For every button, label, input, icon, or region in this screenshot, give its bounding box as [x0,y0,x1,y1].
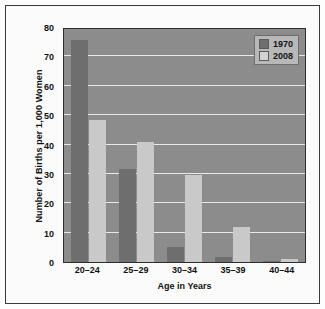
bar-2008-25-29 [137,142,154,262]
bar-2008-20-24 [89,120,106,262]
y-tick-label: 80 [44,23,54,33]
bar-1970-30-34 [167,247,184,262]
bar-1970-40-44 [263,261,280,262]
bar-2008-40-44 [281,259,298,262]
y-tick-label: 0 [49,258,54,268]
bar-chart-figure: Number of Births per 1,000 Women 8070605… [6,6,321,305]
y-tick-label: 70 [44,52,54,62]
bar-group [211,29,254,262]
legend: 19702008 [254,35,299,65]
y-tick-label: 30 [44,170,54,180]
legend-entry: 1970 [259,39,293,49]
y-tick-label: 60 [44,82,54,92]
bar-group [66,29,109,262]
bar-group [163,29,206,262]
x-tick-label: 35–39 [211,265,255,279]
x-axis-title: Age in Years [63,281,306,291]
x-tick-label: 20–24 [65,265,109,279]
x-tick-label: 30–34 [163,265,207,279]
legend-swatch-icon [259,51,269,61]
y-tick-label: 50 [44,111,54,121]
y-axis-tick-labels: 80706050403020100 [28,28,58,263]
bar-1970-35-39 [215,257,232,262]
figure-frame: Number of Births per 1,000 Women 8070605… [5,5,320,304]
legend-label: 1970 [273,40,293,49]
y-tick-label: 20 [44,199,54,209]
bar-group [115,29,158,262]
bar-1970-20-24 [71,40,88,262]
y-tick-label: 40 [44,141,54,151]
legend-swatch-icon [259,39,269,49]
x-tick-label: 25–29 [114,265,158,279]
y-tick-label: 10 [44,229,54,239]
x-tick-label: 40–44 [260,265,304,279]
plot-area: 19702008 [63,28,306,263]
legend-label: 2008 [273,52,293,61]
chart-page: Number of Births per 1,000 Women 8070605… [0,0,325,309]
bar-2008-30-34 [185,175,202,262]
legend-entry: 2008 [259,51,293,61]
bar-2008-35-39 [233,227,250,262]
x-axis-tick-labels: 20–2425–2930–3435–3940–44 [63,265,306,279]
bar-1970-25-29 [119,169,136,262]
